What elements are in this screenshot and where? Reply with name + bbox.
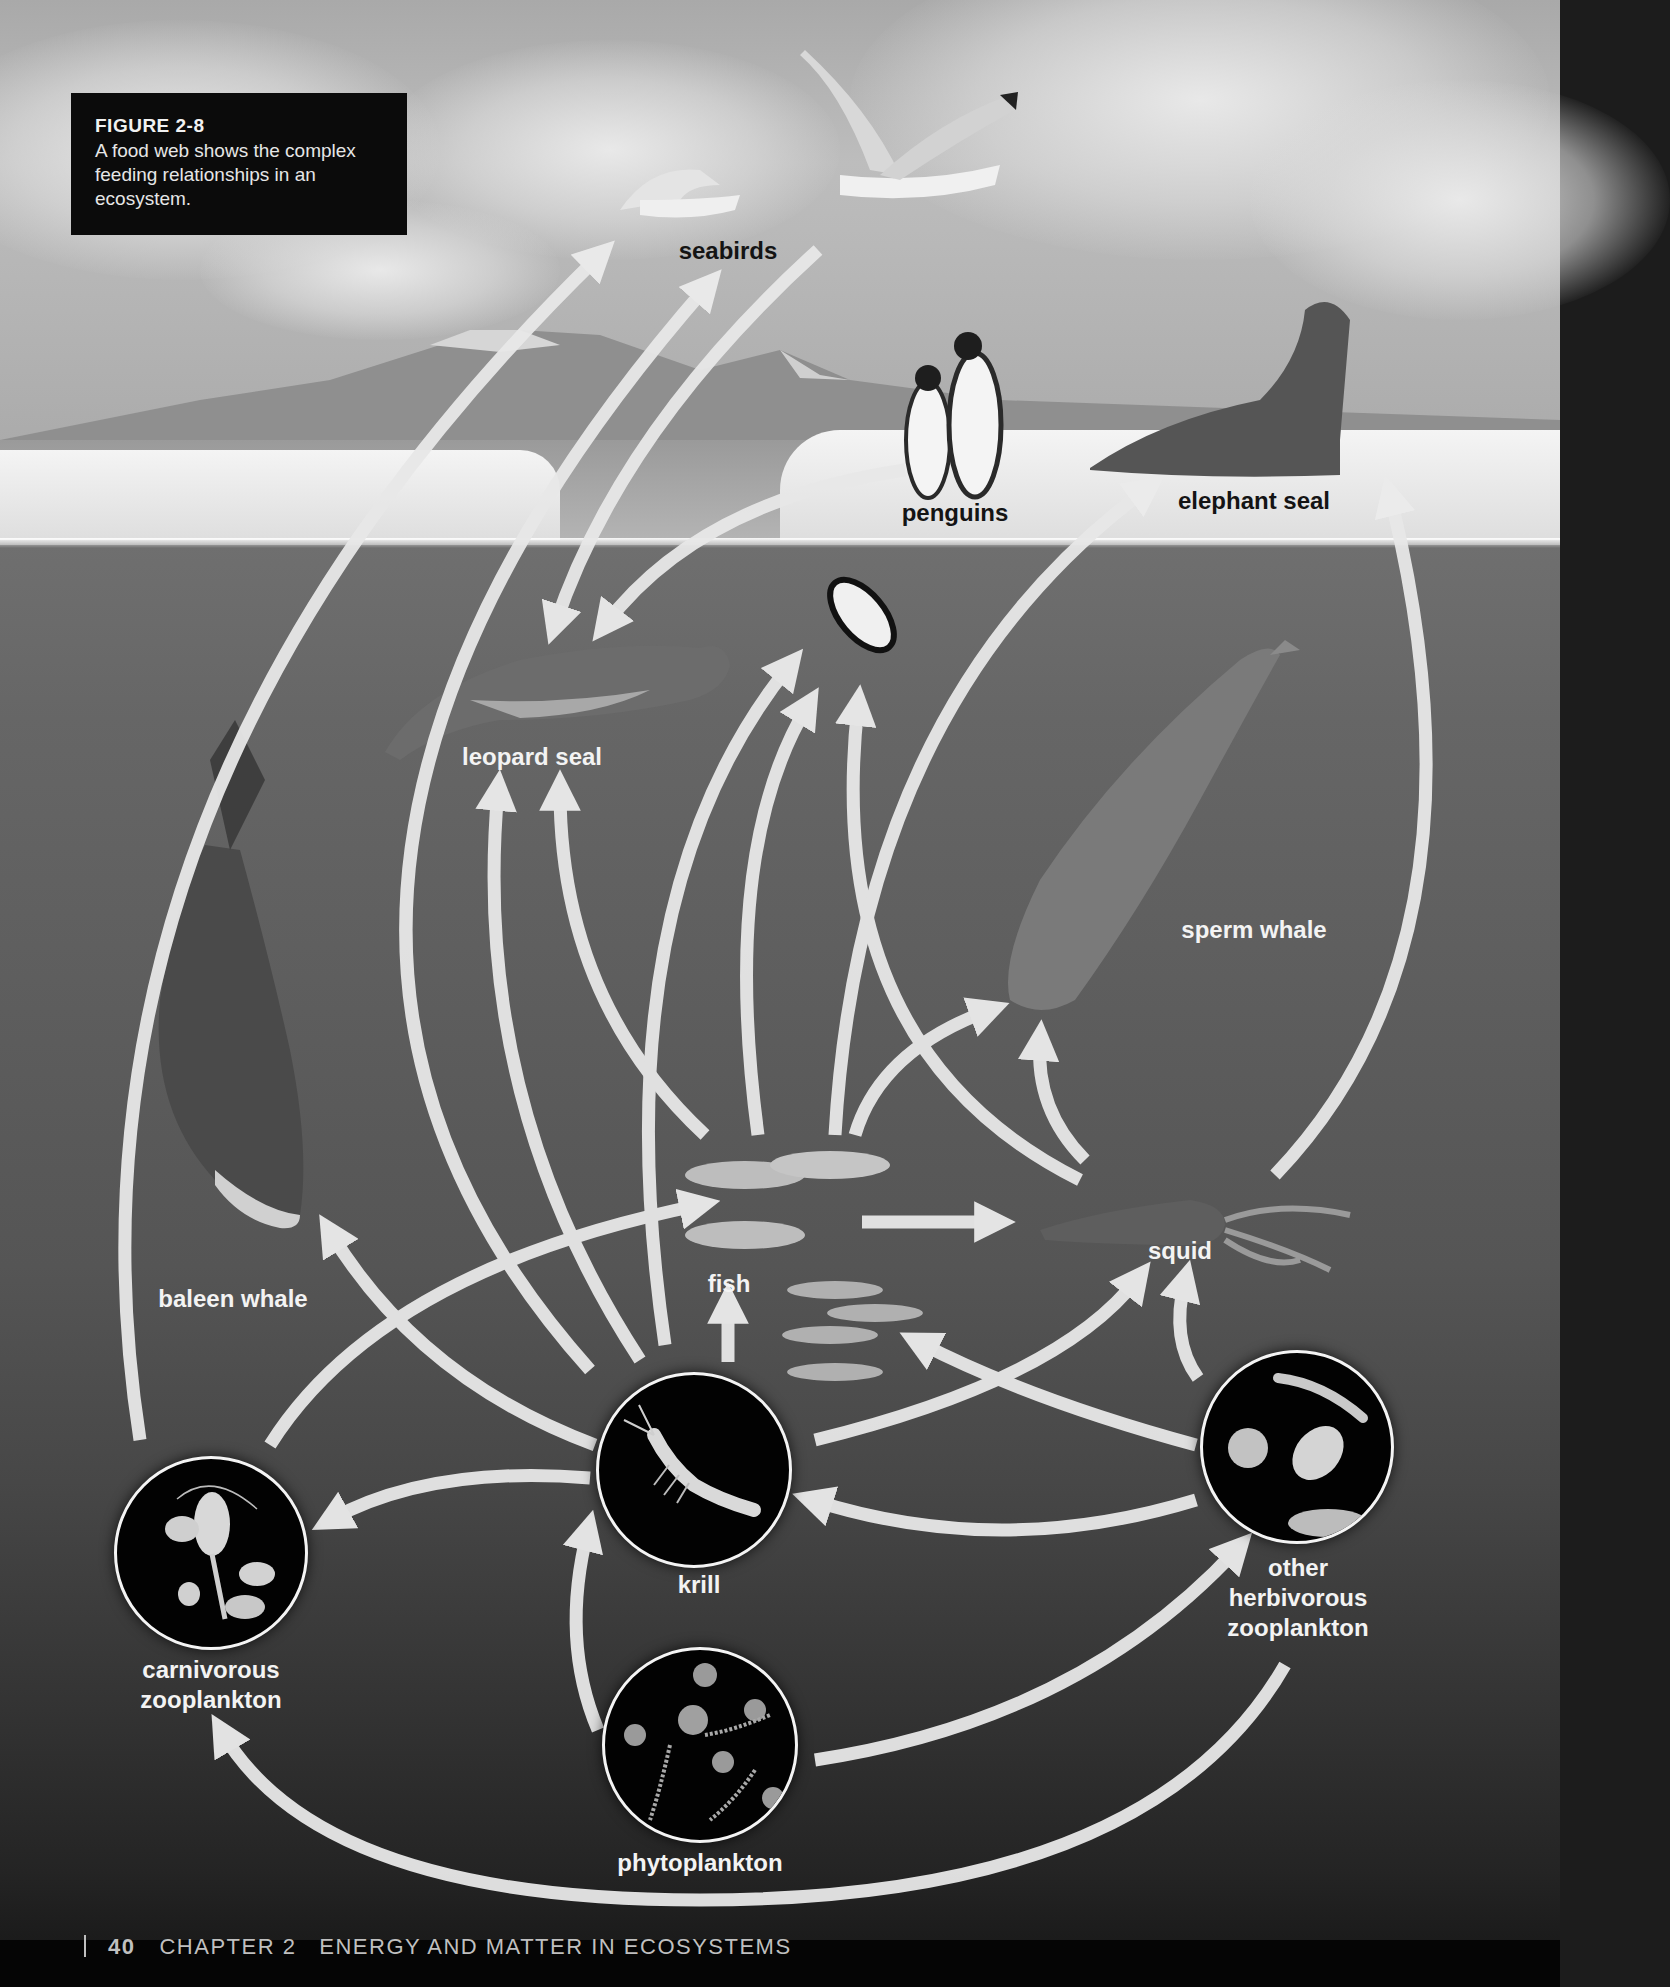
label-baleen-whale: baleen whale [158, 1284, 307, 1314]
arrow-fish-to-sperm-whale [855, 1010, 990, 1135]
label-other-herbivorous-zooplankton-line2: herbivorous [1229, 1583, 1368, 1613]
chapter-title: ENERGY AND MATTER IN ECOSYSTEMS [319, 1934, 791, 1959]
other-herbivorous-zooplankton-circle [1200, 1350, 1394, 1544]
figure-caption: FIGURE 2-8 A food web shows the complex … [71, 93, 407, 235]
seabird-illustrations [620, 50, 1018, 218]
label-other-herbivorous-zooplankton-line3: zooplankton [1227, 1613, 1368, 1643]
herbivorous-zooplankton-icon [1203, 1353, 1391, 1541]
arrow-krill-to-carnivorous-zooplankton [330, 1476, 590, 1520]
label-leopard-seal: leopard seal [462, 742, 602, 772]
arrow-fish-to-penguins [747, 705, 808, 1135]
sperm-whale-illustration [1008, 640, 1300, 1010]
label-fish: fish [708, 1269, 751, 1299]
page-footer: 40CHAPTER 2 ENERGY AND MATTER IN ECOSYST… [84, 1934, 792, 1960]
arrow-fish-to-leopard-seal [560, 790, 705, 1135]
figure-caption-text: A food web shows the complex feeding rel… [95, 139, 383, 211]
arrow-phytoplankton-to-other-herbivorous-zooplankton [815, 1548, 1238, 1760]
carnivorous-zooplankton-icon [117, 1459, 305, 1647]
arrow-carnivorous-zooplankton-to-seabirds [125, 255, 600, 1440]
label-carnivorous-zooplankton-line2: zooplankton [140, 1685, 281, 1715]
phytoplankton-icon [605, 1650, 795, 1840]
label-phytoplankton: phytoplankton [617, 1848, 782, 1878]
label-elephant-seal: elephant seal [1178, 486, 1330, 516]
phytoplankton-circle [602, 1647, 798, 1843]
label-sperm-whale: sperm whale [1181, 915, 1326, 945]
label-squid: squid [1148, 1236, 1212, 1266]
carnivorous-zooplankton-circle [114, 1456, 308, 1650]
arrow-squid-to-sperm-whale [1040, 1040, 1085, 1160]
swimming-penguin-illustration [818, 569, 906, 662]
elephant-seal-illustration [1090, 302, 1350, 477]
penguin-illustrations [906, 332, 1001, 498]
krill-icon [599, 1375, 789, 1565]
arrow-other-herbivorous-zooplankton-to-krill [812, 1500, 1196, 1530]
baleen-whale-illustration [159, 720, 304, 1228]
label-carnivorous-zooplankton-line1: carnivorous [142, 1655, 279, 1685]
label-penguins: penguins [902, 498, 1009, 528]
arrow-squid-to-elephant-seal [1275, 495, 1426, 1175]
label-krill: krill [678, 1570, 721, 1600]
chapter-label: CHAPTER 2 [159, 1934, 296, 1959]
label-other-herbivorous-zooplankton-line1: other [1268, 1553, 1328, 1583]
krill-circle [596, 1372, 792, 1568]
footer-divider [84, 1935, 86, 1957]
fish-illustrations [685, 1151, 923, 1381]
arrow-phytoplankton-to-krill [576, 1530, 598, 1730]
label-seabirds: seabirds [679, 236, 778, 266]
figure-number: FIGURE 2-8 [95, 115, 383, 137]
page-number: 40 [108, 1934, 135, 1959]
arrow-other-herbivorous-zooplankton-to-squid [1180, 1280, 1198, 1378]
